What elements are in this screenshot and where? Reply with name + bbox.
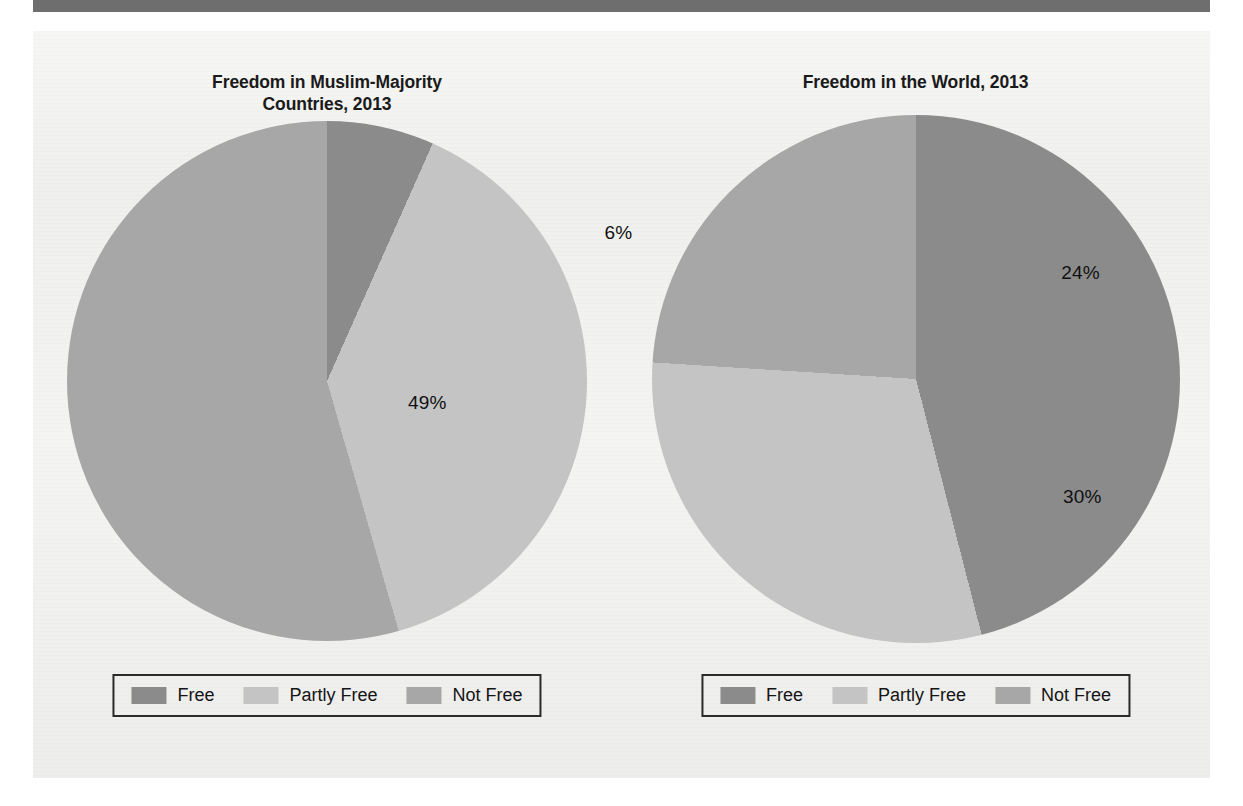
chart-title-muslim-majority: Freedom in Muslim-Majority Countries, 20… bbox=[33, 71, 621, 116]
legend-item-partly_free[interactable]: Partly Free bbox=[832, 685, 966, 706]
legend-label-free: Free bbox=[177, 685, 214, 706]
legend-label-partly_free: Partly Free bbox=[289, 685, 377, 706]
slice-label-not-free: 49% bbox=[408, 392, 447, 414]
chart-title-line-1: Freedom in the World, 2013 bbox=[621, 71, 1210, 93]
legend-item-free[interactable]: Free bbox=[131, 685, 214, 706]
legend-swatch-free bbox=[720, 687, 755, 704]
legend-muslim-majority: FreePartly FreeNot Free bbox=[112, 674, 541, 717]
legend-swatch-partly_free bbox=[832, 687, 867, 704]
legend-swatch-partly_free bbox=[243, 687, 278, 704]
legend-swatch-free bbox=[131, 687, 166, 704]
legend-item-partly_free[interactable]: Partly Free bbox=[243, 685, 377, 706]
legend-swatch-not_free bbox=[407, 687, 442, 704]
legend-label-free: Free bbox=[766, 685, 803, 706]
legend-label-partly_free: Partly Free bbox=[878, 685, 966, 706]
legend-item-not_free[interactable]: Not Free bbox=[407, 685, 523, 706]
legend-world: FreePartly FreeNot Free bbox=[701, 674, 1130, 717]
pie-chart-muslim-majority: Freedom in Muslim-Majority Countries, 20… bbox=[33, 31, 621, 778]
legend-swatch-not_free bbox=[995, 687, 1030, 704]
legend-label-not_free: Not Free bbox=[453, 685, 523, 706]
chart-title-line-1: Freedom in Muslim-Majority bbox=[33, 71, 621, 93]
chart-title-world: Freedom in the World, 2013 bbox=[621, 71, 1210, 93]
legend-item-free[interactable]: Free bbox=[720, 685, 803, 706]
legend-label-not_free: Not Free bbox=[1041, 685, 1111, 706]
legend-item-not_free[interactable]: Not Free bbox=[995, 685, 1111, 706]
chart-title-line-2: Countries, 2013 bbox=[33, 93, 621, 115]
slice-label-partly-free: 30% bbox=[1063, 486, 1102, 508]
pie-area-world: 46% 30% 24% bbox=[621, 115, 1210, 655]
slice-label-not-free: 24% bbox=[1061, 262, 1100, 284]
pie-graphic-muslim-majority bbox=[67, 121, 587, 641]
pie-chart-world: Freedom in the World, 2013 46% 30% 24% F… bbox=[621, 31, 1210, 778]
scanned-page: Freedom in Muslim-Majority Countries, 20… bbox=[0, 0, 1243, 806]
pie-graphic-world bbox=[652, 115, 1180, 643]
pie-area-muslim-majority: 6% 35% 49% bbox=[33, 115, 621, 655]
page-top-rule bbox=[33, 0, 1210, 12]
